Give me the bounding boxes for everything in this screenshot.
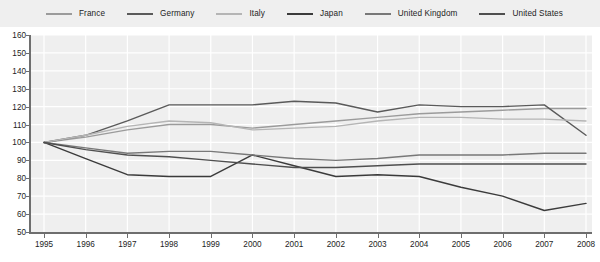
y-axis-tick-label: 120 bbox=[2, 102, 26, 111]
line-chart: FranceGermanyItalyJapanUnited KingdomUni… bbox=[0, 0, 600, 262]
x-axis-tick-label: 2008 bbox=[566, 240, 600, 249]
x-axis-tick-label: 2002 bbox=[316, 240, 356, 249]
series-line-france bbox=[44, 108, 586, 142]
x-axis-tick-label: 2005 bbox=[441, 240, 481, 249]
y-axis-tick-label: 90 bbox=[2, 156, 26, 165]
x-axis-tick-mark bbox=[86, 234, 87, 238]
y-axis-tick-label: 150 bbox=[2, 48, 26, 57]
legend-item-germany[interactable]: Germany bbox=[127, 9, 194, 18]
x-axis-tick-marks bbox=[30, 234, 592, 239]
legend-swatch-icon bbox=[365, 13, 391, 15]
plot-area bbox=[30, 35, 592, 232]
x-axis-tick-label: 1998 bbox=[149, 240, 189, 249]
legend-item-italy[interactable]: Italy bbox=[216, 9, 265, 18]
chart-legend: FranceGermanyItalyJapanUnited KingdomUni… bbox=[0, 0, 600, 27]
x-axis-tick-label: 2004 bbox=[399, 240, 439, 249]
legend-swatch-icon bbox=[287, 13, 313, 15]
legend-item-label: Italy bbox=[249, 9, 265, 18]
x-axis-tick-label: 1996 bbox=[66, 240, 106, 249]
x-axis-tick-label: 2000 bbox=[232, 240, 272, 249]
legend-item-united-states[interactable]: United States bbox=[479, 9, 562, 18]
y-axis-tick-label: 110 bbox=[2, 120, 26, 129]
y-axis-tick-labels: 5060708090100110120130140150160 bbox=[0, 35, 26, 232]
legend-swatch-icon bbox=[479, 13, 505, 15]
x-axis-tick-mark bbox=[461, 234, 462, 238]
x-axis-tick-mark bbox=[336, 234, 337, 238]
x-axis-tick-label: 1995 bbox=[24, 240, 64, 249]
series-line-germany bbox=[44, 101, 586, 142]
x-axis-tick-label: 2007 bbox=[524, 240, 564, 249]
y-axis-tick-label: 100 bbox=[2, 138, 26, 147]
y-axis-tick-label: 70 bbox=[2, 192, 26, 201]
legend-item-japan[interactable]: Japan bbox=[287, 9, 343, 18]
y-axis-tick-label: 130 bbox=[2, 84, 26, 93]
legend-item-label: Germany bbox=[160, 9, 194, 18]
y-axis-tick-label: 60 bbox=[2, 210, 26, 219]
x-axis-tick-mark bbox=[378, 234, 379, 238]
x-axis-tick-mark bbox=[252, 234, 253, 238]
y-axis-tick-label: 80 bbox=[2, 174, 26, 183]
x-axis-tick-label: 1997 bbox=[107, 240, 147, 249]
x-axis-tick-mark bbox=[127, 234, 128, 238]
x-axis-tick-mark bbox=[294, 234, 295, 238]
y-axis-line bbox=[29, 35, 31, 232]
x-axis-tick-mark bbox=[586, 234, 587, 238]
series-line-united-kingdom bbox=[44, 142, 586, 160]
legend-item-label: Japan bbox=[320, 9, 343, 18]
x-axis-tick-label: 2001 bbox=[274, 240, 314, 249]
legend-swatch-icon bbox=[127, 13, 153, 15]
legend-item-label: United States bbox=[512, 9, 562, 18]
x-axis-tick-mark bbox=[211, 234, 212, 238]
x-axis-tick-mark bbox=[544, 234, 545, 238]
y-axis-tick-label: 50 bbox=[2, 228, 26, 237]
x-axis-tick-label: 1999 bbox=[191, 240, 231, 249]
x-axis-tick-labels: 1995199619971998199920002001200220032004… bbox=[30, 240, 592, 254]
legend-item-united-kingdom[interactable]: United Kingdom bbox=[365, 9, 458, 18]
x-axis-tick-label: 2003 bbox=[358, 240, 398, 249]
y-axis-tick-label: 160 bbox=[2, 31, 26, 40]
series-lines bbox=[30, 35, 592, 232]
y-axis-tick-label: 140 bbox=[2, 66, 26, 75]
x-axis-tick-mark bbox=[44, 234, 45, 238]
x-axis-tick-label: 2006 bbox=[483, 240, 523, 249]
legend-item-label: United Kingdom bbox=[398, 9, 458, 18]
legend-item-label: France bbox=[79, 9, 105, 18]
legend-swatch-icon bbox=[216, 13, 242, 15]
x-axis-tick-mark bbox=[503, 234, 504, 238]
x-axis-tick-mark bbox=[419, 234, 420, 238]
x-axis-tick-mark bbox=[169, 234, 170, 238]
legend-item-france[interactable]: France bbox=[46, 9, 105, 18]
legend-swatch-icon bbox=[46, 13, 72, 15]
